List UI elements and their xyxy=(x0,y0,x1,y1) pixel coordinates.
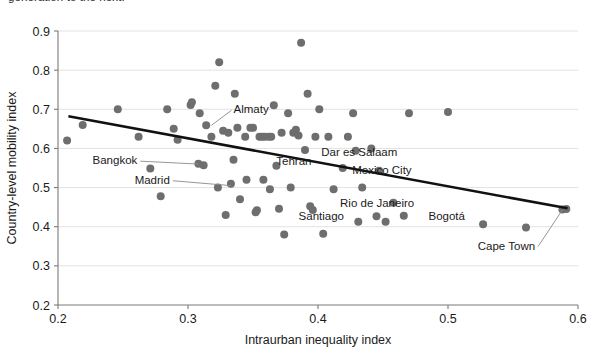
y-tick-label: 0.6 xyxy=(33,142,50,156)
gridlines-group xyxy=(58,31,578,266)
data-point xyxy=(63,137,71,145)
data-point xyxy=(79,121,87,129)
data-point xyxy=(315,105,323,113)
data-point xyxy=(215,58,223,66)
annotation-label: Bangkok xyxy=(93,154,138,166)
data-point xyxy=(170,125,178,133)
data-point xyxy=(297,39,305,47)
annotation-label: Bogotá xyxy=(429,210,466,222)
data-point xyxy=(330,185,338,193)
data-point xyxy=(207,133,215,141)
data-point xyxy=(241,133,249,141)
data-point xyxy=(236,195,244,203)
x-tick-label: 0.4 xyxy=(309,312,326,326)
data-point xyxy=(135,133,143,141)
data-point xyxy=(280,231,288,239)
annotation-leader-line xyxy=(140,161,198,164)
data-point xyxy=(188,98,196,106)
annotation-label: Almaty xyxy=(234,103,269,115)
chart-canvas: 0.20.30.40.50.60.70.80.9 0.20.30.40.50.6… xyxy=(0,0,592,354)
data-point xyxy=(200,161,208,169)
trendline xyxy=(68,116,567,208)
y-tick-label: 0.9 xyxy=(33,25,50,39)
data-point xyxy=(284,109,292,117)
annotation-label: Santiago xyxy=(299,210,344,222)
annotation-leader-lines-group xyxy=(140,110,562,246)
data-point xyxy=(259,176,267,184)
data-point xyxy=(444,108,452,116)
data-point xyxy=(373,212,381,220)
x-axis-title: Intraurban inequality index xyxy=(245,333,392,347)
data-point xyxy=(301,146,309,154)
y-tick-label: 0.5 xyxy=(33,181,50,195)
data-point xyxy=(304,90,312,98)
scatter-plot-figure: generation to the next. 0.20.30.40.50.60… xyxy=(0,0,592,354)
data-point xyxy=(266,185,274,193)
data-point xyxy=(227,180,235,188)
annotation-label: Dar es Salaam xyxy=(321,146,397,158)
data-point xyxy=(311,133,319,141)
y-tick-label: 0.7 xyxy=(33,103,50,117)
y-axis-title: Country-level mobility index xyxy=(5,91,19,245)
y-axis-ticks-group: 0.20.30.40.50.60.70.80.9 xyxy=(33,25,58,313)
data-point xyxy=(354,218,362,226)
data-point xyxy=(295,132,303,140)
data-point xyxy=(196,109,204,117)
annotation-labels-group: AlmatyBangkokMadridTehranDar es SalaamMe… xyxy=(93,103,536,251)
clipped-caption-text: generation to the next. xyxy=(8,0,125,3)
data-point xyxy=(114,105,122,113)
data-point xyxy=(163,105,171,113)
data-point xyxy=(275,205,283,213)
data-point xyxy=(287,184,295,192)
y-tick-label: 0.3 xyxy=(33,259,50,273)
data-point xyxy=(211,82,219,90)
data-point xyxy=(253,206,261,214)
x-tick-label: 0.5 xyxy=(439,312,456,326)
data-point xyxy=(267,133,275,141)
data-point xyxy=(349,109,357,117)
data-point xyxy=(479,220,487,228)
y-tick-label: 0.2 xyxy=(33,299,50,313)
x-tick-label: 0.2 xyxy=(49,312,66,326)
data-point xyxy=(344,133,352,141)
annotation-leader-line xyxy=(211,110,231,125)
data-point xyxy=(358,184,366,192)
x-tick-label: 0.6 xyxy=(569,312,586,326)
data-point xyxy=(522,224,530,232)
data-point xyxy=(319,230,327,238)
annotation-leader-line xyxy=(173,181,231,186)
data-point xyxy=(224,129,232,137)
y-tick-label: 0.4 xyxy=(33,220,50,234)
data-point xyxy=(278,129,286,137)
data-point xyxy=(146,164,154,172)
data-point xyxy=(231,90,239,98)
y-tick-label: 0.8 xyxy=(33,64,50,78)
data-point xyxy=(243,176,251,184)
data-point xyxy=(405,109,413,117)
data-point xyxy=(233,124,241,132)
x-axis-ticks-group: 0.20.30.40.50.6 xyxy=(49,305,586,326)
data-point xyxy=(270,101,278,109)
annotation-leader-line xyxy=(538,210,562,247)
data-points-group xyxy=(63,39,570,239)
data-point xyxy=(400,212,408,220)
data-point xyxy=(324,133,332,141)
data-point xyxy=(249,124,257,132)
annotation-label: Cape Town xyxy=(478,240,535,252)
x-tick-label: 0.3 xyxy=(179,312,196,326)
data-point xyxy=(202,121,210,129)
data-point xyxy=(382,218,390,226)
annotation-label: Mexico City xyxy=(352,164,412,176)
annotation-label: Rio de Janeiro xyxy=(340,197,414,209)
annotation-label: Tehran xyxy=(276,155,311,167)
data-point xyxy=(230,156,238,164)
annotation-label: Madrid xyxy=(135,174,170,186)
data-point xyxy=(157,192,165,200)
data-point xyxy=(222,211,230,219)
